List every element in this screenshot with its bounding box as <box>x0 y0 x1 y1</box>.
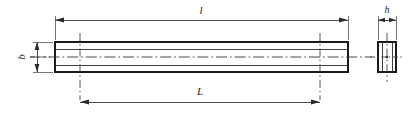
dim-label-width-b: b <box>15 54 27 60</box>
engineering-drawing-svg: l b L <box>0 0 409 116</box>
arrowhead-b-top-icon <box>35 42 40 50</box>
dim-label-length-overall: l <box>199 4 202 16</box>
dimension-length-overall: l <box>55 4 348 40</box>
technical-drawing-canvas: l b L <box>0 0 409 116</box>
dimension-width-b: b <box>15 42 53 72</box>
arrowhead-l-left-icon <box>55 18 64 23</box>
arrowhead-h-left-icon <box>378 18 385 22</box>
arrowhead-l-right-icon <box>339 18 348 23</box>
arrowhead-L-left-icon <box>80 100 89 105</box>
dim-label-height-h: h <box>385 4 390 15</box>
dim-label-length-L: L <box>196 85 203 97</box>
arrowhead-L-right-icon <box>311 100 320 105</box>
arrowhead-b-bottom-icon <box>35 64 40 72</box>
dimension-length-L: L <box>80 85 320 105</box>
arrowhead-h-right-icon <box>389 18 396 22</box>
